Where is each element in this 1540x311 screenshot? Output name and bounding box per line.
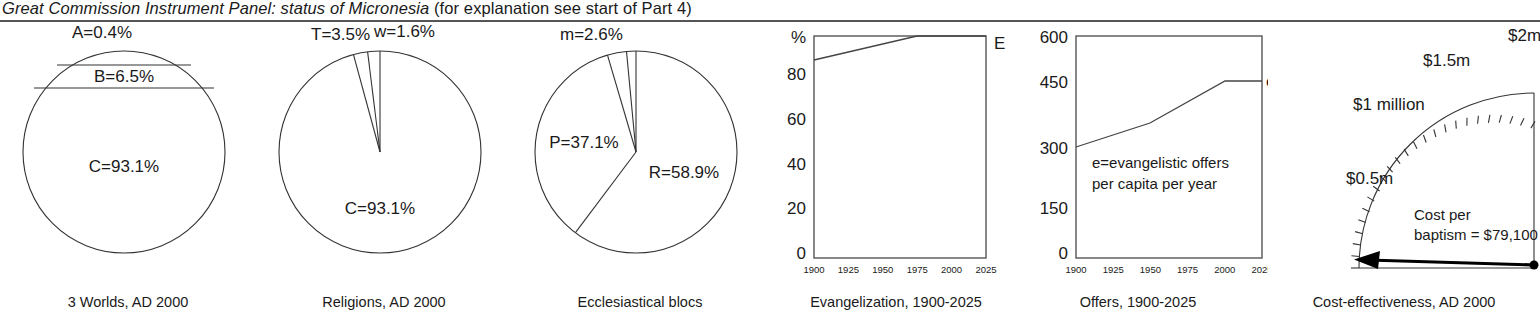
xtick-1900: 1900 (803, 264, 824, 275)
series-line-e (1076, 81, 1262, 147)
caption-religions: Religions, AD 2000 (256, 294, 512, 310)
three-worlds-graphic: A=0.4% B=6.5% C=93.1% (0, 24, 256, 286)
gauge-label-1-million: $1 million (1353, 95, 1425, 114)
gauge-tick (1488, 115, 1490, 123)
gauge-tick (1355, 232, 1363, 234)
xtick-1950: 1950 (872, 264, 893, 275)
page-title: Great Commission Instrument Panel: statu… (2, 0, 692, 18)
page-title-note: (for explanation see start of Part 4) (429, 0, 691, 17)
gauge-tick (1456, 121, 1457, 129)
label-world-b: B=6.5% (94, 67, 154, 86)
gauge-tick (1445, 124, 1446, 132)
needle-shaft (1368, 260, 1534, 265)
gauge-tick (1358, 220, 1366, 223)
needle-pivot (1530, 261, 1539, 270)
evangelization-graphic: % 80 60 40 20 0 1900 1925 1950 1975 2000… (768, 24, 1010, 286)
ytick-150: 150 (1040, 199, 1068, 218)
cost-note-line2: baptism = $79,100 (1414, 226, 1538, 243)
label-bloc-m: m=2.6% (560, 25, 623, 44)
instrument-panel: Great Commission Instrument Panel: statu… (0, 0, 1540, 311)
chart-evangelization: % 80 60 40 20 0 1900 1925 1950 1975 2000… (768, 24, 1024, 311)
needle-arrowhead (1354, 251, 1380, 269)
ytick-60: 60 (787, 110, 806, 129)
ytick-300: 300 (1040, 139, 1068, 158)
page-title-subject: Great Commission Instrument Panel: statu… (2, 0, 429, 17)
slice-edge-w (368, 52, 380, 152)
label-bloc-r: R=58.9% (649, 163, 719, 182)
gauge-tick (1510, 116, 1513, 123)
gauge-tick (1521, 118, 1525, 125)
label-religion-t: T=3.5% (311, 25, 370, 44)
gauge-tick (1353, 244, 1361, 245)
ytick-80: 80 (787, 65, 806, 84)
gauge-needle (1354, 251, 1539, 270)
series-label-E: E (994, 34, 1005, 53)
chart-religions: T=3.5% w=1.6% C=93.1% Religions, AD 2000 (256, 24, 512, 311)
header-divider (0, 20, 1540, 22)
gauge-ticks (1351, 115, 1535, 268)
offers-note-line1: e=evangelistic offers (1092, 154, 1229, 171)
gauge-tick (1351, 256, 1359, 257)
offers-graphic: 600 450 300 150 0 1900 1925 1950 1975 20… (1010, 24, 1268, 286)
label-bloc-p: P=37.1% (549, 133, 618, 152)
ytick-0: 0 (1059, 244, 1068, 263)
gauge-tick (1499, 115, 1501, 123)
cost-effectiveness-graphic: $0.5m $1 million $1.5m $2m Cost per bapt… (1268, 24, 1540, 286)
xtick-2000: 2000 (1214, 264, 1235, 275)
caption-cost-effectiveness: Cost-effectiveness, AD 2000 (1268, 294, 1540, 310)
xtick-1925: 1925 (838, 264, 859, 275)
ecclesiastical-graphic: m=2.6% P=37.1% R=58.9% (512, 24, 768, 286)
gauge-tick (1414, 142, 1418, 149)
ytick-600: 600 (1040, 28, 1068, 47)
chart-cost-effectiveness: $0.5m $1 million $1.5m $2m Cost per bapt… (1268, 24, 1540, 311)
xtick-1925: 1925 (1103, 264, 1124, 275)
ytick-100-percent: % (791, 28, 806, 47)
cost-note-line1: Cost per (1414, 206, 1471, 223)
xtick-2025: 2025 (1251, 264, 1268, 275)
xtick-1975: 1975 (1177, 264, 1198, 275)
slice-edge-t (353, 54, 380, 152)
offers-note-line2: per capita per year (1092, 175, 1217, 192)
caption-ecclesiastical-blocs: Ecclesiastical blocs (512, 294, 768, 310)
offers-plot-frame (1076, 36, 1262, 258)
chart-offers: 600 450 300 150 0 1900 1925 1950 1975 20… (1010, 24, 1266, 311)
xtick-1900: 1900 (1065, 264, 1086, 275)
series-line-E (814, 36, 986, 60)
gauge-label-1-5m: $1.5m (1423, 51, 1470, 70)
xtick-1975: 1975 (907, 264, 928, 275)
caption-offers: Offers, 1900-2025 (1010, 294, 1266, 310)
xtick-2000: 2000 (941, 264, 962, 275)
gauge-tick (1404, 149, 1408, 156)
label-religion-c: C=93.1% (345, 199, 415, 218)
gauge-tick (1423, 135, 1426, 143)
gauge-label-0-5m: $0.5m (1346, 169, 1393, 188)
ytick-40: 40 (787, 155, 806, 174)
xtick-1950: 1950 (1140, 264, 1161, 275)
caption-three-worlds: 3 Worlds, AD 2000 (0, 294, 256, 310)
religions-graphic: T=3.5% w=1.6% C=93.1% (256, 24, 512, 286)
evangelization-plot-frame (814, 36, 986, 258)
label-religion-w: w=1.6% (373, 24, 435, 41)
label-world-c: C=93.1% (89, 157, 159, 176)
chart-three-worlds: A=0.4% B=6.5% C=93.1% 3 Worlds, AD 2000 (0, 24, 256, 311)
ytick-20: 20 (787, 199, 806, 218)
label-world-a: A=0.4% (72, 24, 132, 42)
gauge-label-2m: $2m (1508, 26, 1540, 45)
xtick-2025: 2025 (975, 264, 996, 275)
caption-evangelization: Evangelization, 1900-2025 (768, 294, 1024, 310)
ytick-450: 450 (1040, 73, 1068, 92)
chart-ecclesiastical-blocs: m=2.6% P=37.1% R=58.9% Ecclesiastical bl… (512, 24, 768, 311)
gauge-tick (1434, 129, 1436, 137)
gauge-tick (1478, 116, 1479, 124)
slice-edge-r (576, 152, 636, 232)
ytick-0: 0 (797, 244, 806, 263)
